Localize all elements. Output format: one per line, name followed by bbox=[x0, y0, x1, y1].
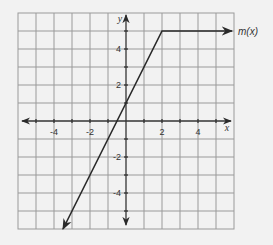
y-axis-label: y bbox=[117, 13, 123, 24]
coordinate-plane: -4 -2 2 4 4 2 -2 -4 y x m(x) bbox=[0, 0, 273, 245]
x-tick-label: 4 bbox=[195, 127, 200, 137]
function-label: m(x) bbox=[238, 26, 258, 37]
x-axis-label: x bbox=[224, 122, 230, 133]
y-tick-label: -2 bbox=[113, 152, 121, 162]
x-tick-label: -4 bbox=[50, 127, 58, 137]
y-tick-label: 4 bbox=[116, 44, 121, 54]
x-tick-label: 2 bbox=[159, 127, 164, 137]
y-tick-label: -4 bbox=[113, 188, 121, 198]
y-tick-label: 2 bbox=[116, 80, 121, 90]
x-tick-label: -2 bbox=[86, 127, 94, 137]
